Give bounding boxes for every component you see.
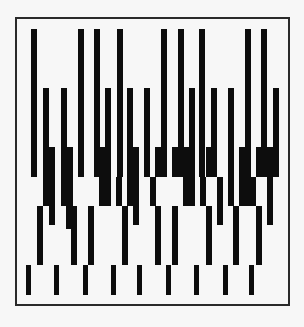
- bar: [228, 88, 234, 206]
- bar: [88, 206, 94, 265]
- bar: [137, 265, 142, 295]
- bar: [71, 206, 77, 265]
- bar: [199, 29, 205, 177]
- bar: [233, 206, 239, 265]
- bar: [223, 265, 228, 295]
- bar: [122, 206, 128, 265]
- bar: [206, 147, 217, 177]
- bar: [155, 147, 167, 177]
- bar: [166, 265, 171, 295]
- bar: [200, 177, 206, 206]
- bar: [217, 177, 223, 225]
- bar: [249, 265, 254, 295]
- bar: [172, 206, 178, 265]
- bar: [54, 265, 59, 295]
- bar: [250, 177, 256, 206]
- bar: [99, 147, 111, 206]
- bar: [267, 147, 279, 177]
- bar: [267, 177, 273, 225]
- bar: [183, 147, 195, 206]
- bar: [117, 29, 123, 177]
- bar: [150, 177, 156, 206]
- bar: [194, 265, 199, 295]
- bar: [31, 29, 37, 177]
- pattern-canvas: Vertical bar pattern (weave-like abstrac…: [0, 0, 304, 327]
- bar: [111, 265, 116, 295]
- bar: [78, 29, 84, 177]
- bar: [256, 147, 267, 177]
- bar: [37, 206, 43, 265]
- bar: [144, 88, 150, 177]
- bar: [133, 177, 139, 225]
- bar: [155, 206, 161, 265]
- bar: [26, 265, 31, 295]
- bar: [116, 177, 122, 206]
- bar: [206, 206, 212, 265]
- bar: [256, 206, 262, 265]
- bar: [83, 265, 88, 295]
- bar: [49, 177, 55, 225]
